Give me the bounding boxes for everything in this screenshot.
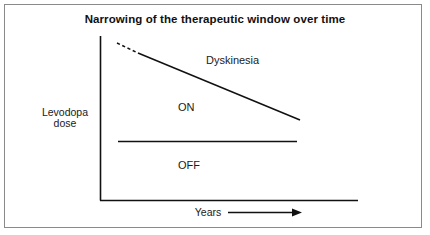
dyskinesia-threshold-dashed [117, 43, 138, 53]
x-axis-label: Years [195, 206, 221, 218]
plot-area: Levodopa dose Dyskinesia ON OFF Years [0, 0, 430, 235]
annotation-on: ON [178, 101, 195, 113]
right-arrow-icon [228, 209, 302, 217]
annotation-off: OFF [178, 159, 200, 171]
figure-container: Narrowing of the therapeutic window over… [0, 0, 430, 235]
annotation-dyskinesia: Dyskinesia [206, 54, 260, 66]
y-axis-label-line2: dose [54, 117, 77, 129]
